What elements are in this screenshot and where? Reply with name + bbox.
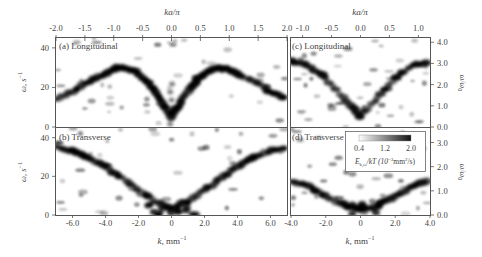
dispersion-ridge [52, 64, 288, 127]
y-axis-title-b: ω, s−1 [17, 162, 28, 182]
tick-label: -6.0 [66, 218, 79, 228]
figure: -2.0-1.5-1.0-0.50.00.51.01.52.0-1.0-0.50… [0, 0, 482, 257]
tick-label: -1.0 [107, 23, 120, 33]
tick-label: 3.0 [437, 58, 448, 68]
panel-label-d: (d) Transverse [292, 132, 344, 142]
y2-axis-title-c: ω/ω0 [457, 75, 467, 92]
tick-label: 6.0 [265, 218, 276, 228]
tick-label: 2.0 [282, 23, 293, 33]
colorbar-gradient [359, 135, 411, 141]
tick-label: 0.5 [195, 23, 206, 33]
tick-label: -4.0 [284, 218, 297, 228]
tick-label: 4.0 [425, 218, 436, 228]
tick-label: 0.0 [437, 122, 448, 132]
tick-label: 40 [41, 133, 50, 143]
dispersion-ridge [52, 144, 288, 218]
tick-label: 3.0 [437, 138, 448, 148]
y2-axis-title-d: ω/ω0 [457, 164, 467, 181]
tick-label: 1.0 [437, 101, 448, 111]
tick-label: 2.0 [199, 218, 210, 228]
tick-label: 0 [358, 218, 362, 228]
tick-label: -2.0 [49, 23, 62, 33]
tick-label: 4.0 [437, 37, 448, 47]
dispersion-ridge [286, 57, 431, 120]
tick-label: -4.0 [99, 218, 112, 228]
bottom-axis-title-right: k, mm−1 [346, 235, 375, 246]
tick-label: -1.5 [78, 23, 91, 33]
bottom-axis-title-left: k, mm−1 [158, 235, 187, 246]
tick-label: 1.0 [437, 186, 448, 196]
tick-label: 1.0 [413, 23, 424, 33]
tick-label: -0.5 [325, 23, 338, 33]
tick-label: -2.0 [319, 218, 332, 228]
frame-left [56, 38, 288, 216]
tick-label: 0.0 [166, 23, 177, 33]
tick-label: 20 [41, 171, 50, 181]
heatmap-panel-c [286, 38, 431, 128]
tick-label: 20 [41, 82, 50, 92]
top-axis-title: ka/π [164, 7, 180, 17]
tick-label: 1.5 [253, 23, 264, 33]
tick-label: -2.0 [132, 218, 145, 228]
tick-label: 0.5 [384, 23, 395, 33]
y-axis-title-a: ω, s−1 [17, 72, 28, 92]
panel-label-b: (b) Transverse [59, 132, 111, 142]
panel-label-c: (c) Longitudinal [292, 41, 351, 51]
colorbar-legend: 0.4 1.2 2.0 Ek,ω/kT (10−3mm2/s) [346, 132, 426, 172]
tick-label: 40 [41, 43, 50, 53]
tick-label: 2.0 [437, 162, 448, 172]
tick-label: 4.0 [232, 218, 243, 228]
tick-label: 1.0 [224, 23, 235, 33]
dispersion-ridge [286, 177, 431, 217]
tick-label: -1.0 [296, 23, 309, 33]
colorbar-tick-0: 0.4 [354, 144, 364, 153]
tick-label: 0.0 [355, 23, 366, 33]
colorbar-tick-2: 2.0 [406, 144, 416, 153]
tick-label: 0 [169, 218, 173, 228]
tick-label: 2.0 [437, 80, 448, 90]
panel-frames [56, 38, 431, 216]
tick-label: 0.0 [437, 210, 448, 220]
panel-label-a: (a) Longitudinal [59, 41, 118, 51]
tick-label: 2.0 [390, 218, 401, 228]
tick-label: 0 [45, 122, 49, 132]
tick-label: 0 [45, 210, 49, 220]
top-axis-title-right: ka/π [352, 7, 368, 17]
colorbar-tick-1: 1.2 [380, 144, 390, 153]
tick-label: -0.5 [136, 23, 149, 33]
